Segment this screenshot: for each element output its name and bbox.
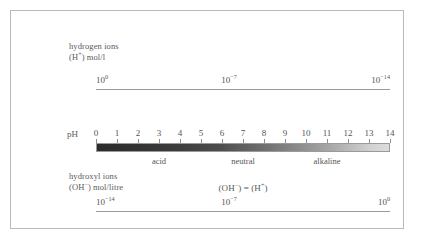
- hydroxyl-ions-caption: hydroxyl ions (OH−) mol/litre: [69, 171, 123, 193]
- region-label-acid: acid: [152, 156, 166, 166]
- ph-tick-12: 12: [344, 128, 353, 138]
- ph-scale-figure: hydrogen ions (H+) mol/l 100 10−7 10−14 …: [0, 0, 425, 248]
- hydroxyl-value-1-exponent: −14: [105, 195, 115, 202]
- hydroxyl-value-3-mantissa: 10: [378, 197, 387, 207]
- ph-tick-10: 10: [302, 128, 311, 138]
- ph-tick-7: 7: [241, 128, 246, 138]
- ph-gradient-bar: [96, 143, 390, 152]
- hydrogen-value-3: 10−14: [371, 75, 390, 85]
- hydroxyl-value-3-exponent: 0: [387, 195, 390, 202]
- hydrogen-value-1-mantissa: 10: [96, 75, 105, 85]
- hydroxyl-value-2-exponent: −7: [230, 195, 237, 202]
- ph-tick-1: 1: [115, 128, 120, 138]
- figure-border: hydrogen ions (H+) mol/l 100 10−7 10−14 …: [10, 10, 404, 229]
- ph-tick-6: 6: [220, 128, 225, 138]
- equation-h-open: (H: [251, 183, 261, 193]
- hydrogen-ions-caption: hydrogen ions (H+) mol/l: [69, 41, 119, 63]
- region-label-neutral: neutral: [231, 156, 255, 166]
- hydroxyl-value-1-mantissa: 10: [96, 197, 105, 207]
- ph-tick-11: 11: [323, 128, 332, 138]
- ph-tick-3: 3: [157, 128, 162, 138]
- hydroxyl-value-2-mantissa: 10: [221, 197, 230, 207]
- hydroxyl-value-3: 100: [378, 197, 390, 207]
- hydrogen-value-1-exponent: 0: [105, 73, 108, 80]
- ph-tick-8: 8: [262, 128, 267, 138]
- ph-tickmark-14: [390, 139, 391, 143]
- equation-oh-close: ): [238, 183, 241, 193]
- ph-tick-4: 4: [178, 128, 183, 138]
- hydrogen-ions-caption-line1: hydrogen ions: [69, 41, 119, 51]
- hydrogen-value-1: 100: [96, 75, 108, 85]
- ph-axis-label: pH: [67, 129, 78, 139]
- hydrogen-ions-caption-line2: (H+) mol/l: [69, 52, 119, 63]
- hydroxyl-ions-unit-prefix: (OH: [69, 182, 84, 192]
- region-label-alkaline: alkaline: [314, 156, 341, 166]
- hydroxyl-value-2: 10−7: [221, 197, 237, 207]
- hydrogen-ions-unit-suffix: ) mol/l: [82, 52, 106, 62]
- equation-h-close: ): [264, 183, 267, 193]
- ph-tick-9: 9: [283, 128, 288, 138]
- hydrogen-value-2-mantissa: 10: [221, 75, 230, 85]
- hydroxyl-value-1: 10−14: [96, 197, 115, 207]
- ph-tick-2: 2: [136, 128, 141, 138]
- hydroxyl-ions-caption-line2: (OH−) mol/litre: [69, 182, 123, 193]
- hydrogen-value-3-exponent: −14: [380, 73, 390, 80]
- ph-tick-0: 0: [94, 128, 99, 138]
- equation-oh-open: (OH: [218, 183, 234, 193]
- neutrality-equation: (OH−) = (H+): [218, 183, 267, 193]
- equation-equals: =: [244, 183, 249, 193]
- hydrogen-value-2: 10−7: [221, 75, 237, 85]
- hydroxyl-ions-unit-suffix: ) mol/litre: [88, 182, 123, 192]
- hydrogen-ions-unit-prefix: (H: [69, 52, 78, 62]
- hydrogen-value-3-mantissa: 10: [371, 75, 380, 85]
- ph-tick-5: 5: [199, 128, 204, 138]
- hydroxyl-ions-caption-line1: hydroxyl ions: [69, 171, 117, 181]
- hydroxyl-axis-rule: [96, 211, 390, 212]
- ph-tick-14: 14: [386, 128, 395, 138]
- ph-tick-13: 13: [365, 128, 374, 138]
- ph-tick-numbers: 01234567891011121314: [96, 128, 390, 139]
- hydrogen-axis-rule: [96, 89, 390, 90]
- hydrogen-value-2-exponent: −7: [230, 73, 237, 80]
